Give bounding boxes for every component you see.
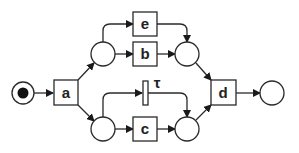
place-p1[interactable] — [91, 42, 115, 66]
label-b: b — [140, 45, 149, 62]
place-p2[interactable] — [91, 117, 115, 141]
arc-e-p3 — [157, 24, 187, 42]
arc-a-p1 — [78, 63, 94, 80]
place-p3[interactable] — [175, 42, 199, 66]
arc-a-p2 — [78, 105, 94, 121]
arc-p1-e — [103, 24, 133, 42]
label-a: a — [62, 84, 71, 101]
label-c: c — [141, 120, 149, 137]
petri-net-diagram: a e b τ c d — [0, 0, 299, 153]
arc-tau-p4 — [148, 93, 187, 117]
place-p4[interactable] — [175, 117, 199, 141]
label-e: e — [141, 15, 149, 32]
arc-p2-tau — [103, 93, 142, 117]
label-tau: τ — [154, 74, 161, 91]
transition-tau[interactable] — [143, 81, 148, 105]
place-end[interactable] — [260, 81, 284, 105]
token-icon — [18, 88, 29, 99]
arc-p3-d — [196, 63, 211, 80]
label-d: d — [218, 84, 227, 101]
arc-p4-d — [196, 105, 211, 120]
